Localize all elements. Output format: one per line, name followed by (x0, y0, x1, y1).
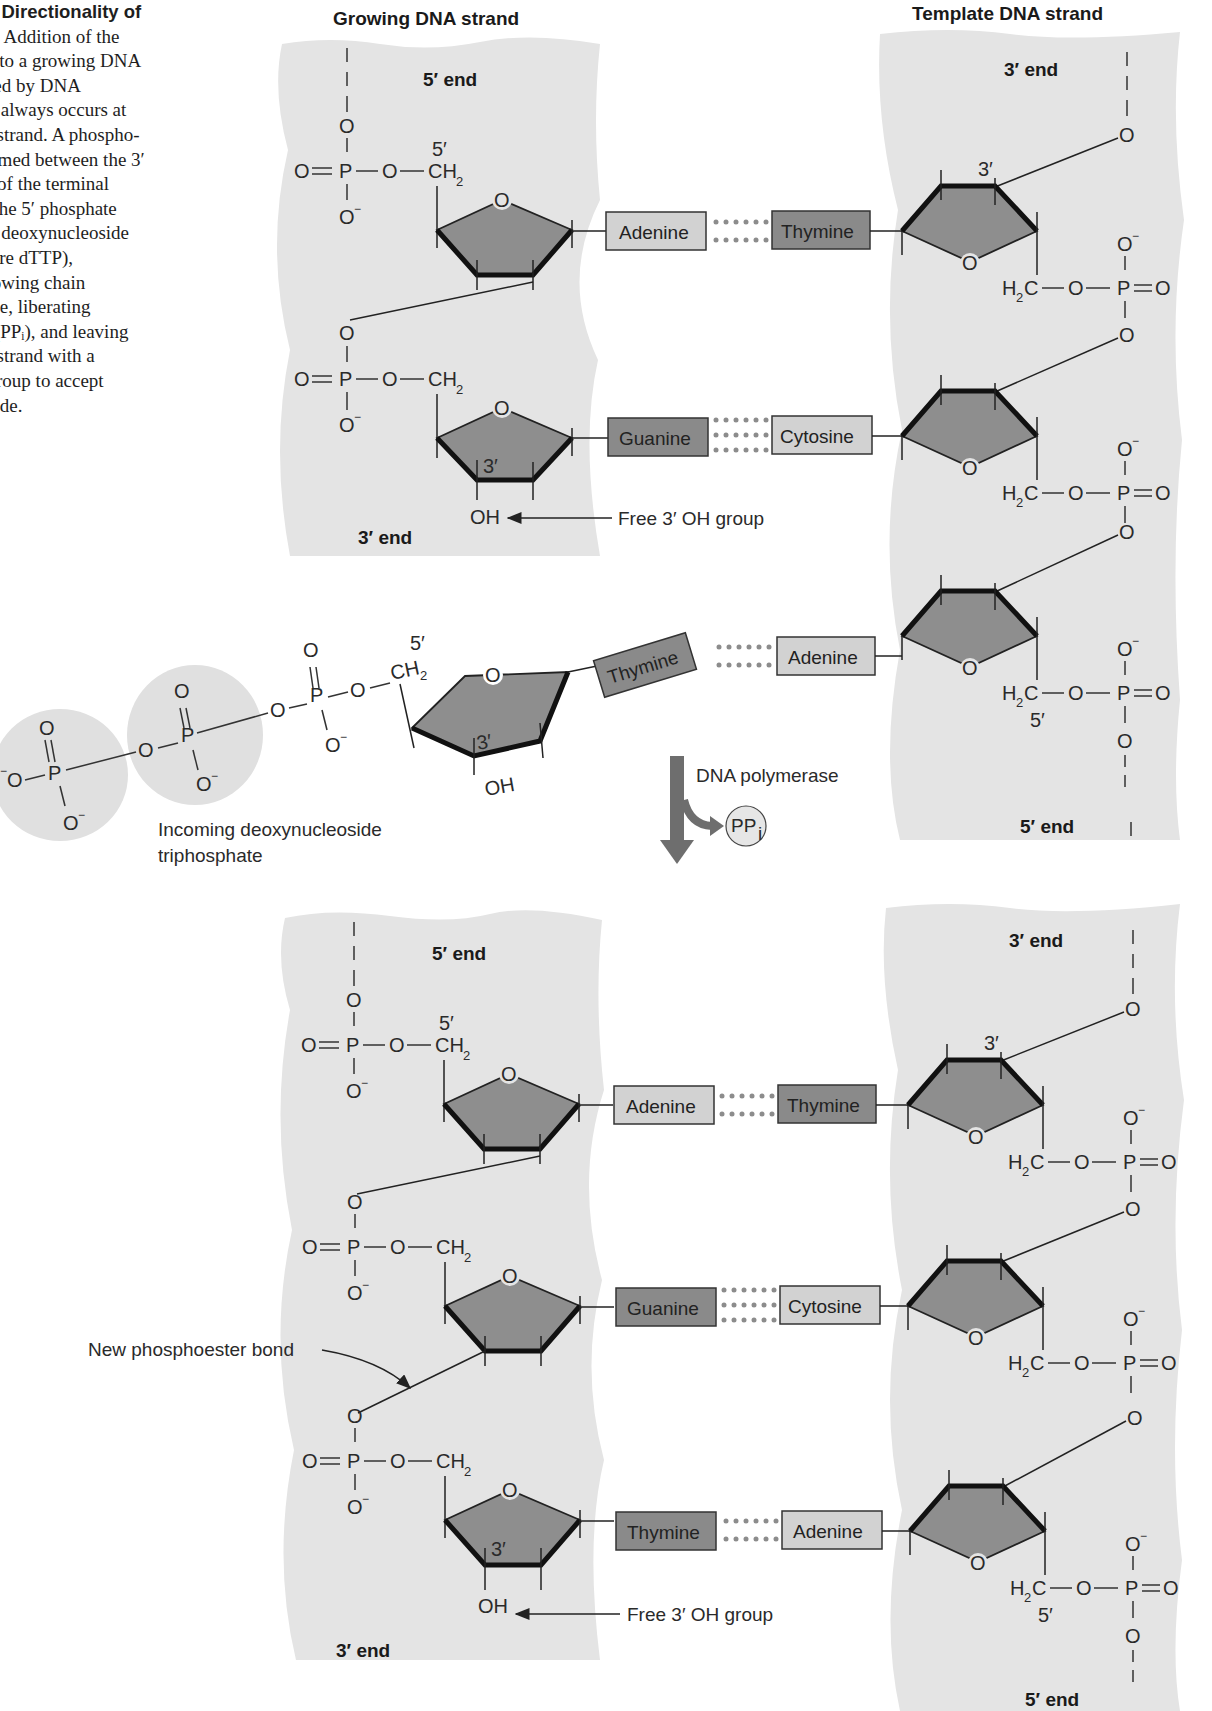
incoming-base-pair: Thymine Adenine (594, 633, 902, 697)
svg-text:O: O (382, 368, 398, 390)
svg-text:−: − (1132, 434, 1139, 448)
svg-text:O: O (494, 189, 510, 211)
svg-text:2: 2 (1022, 1365, 1029, 1380)
svg-text:−: − (1140, 1529, 1147, 1543)
svg-text:CH: CH (436, 1236, 465, 1258)
svg-text:CH: CH (388, 656, 421, 684)
svg-text:−: − (78, 808, 85, 822)
base-adenine: Adenine (793, 1521, 863, 1542)
svg-text:OH: OH (483, 773, 516, 800)
svg-text:O: O (1068, 682, 1084, 704)
svg-text:H: H (1008, 1352, 1022, 1374)
svg-text:−: − (362, 1278, 369, 1292)
base-guanine: Guanine (619, 428, 691, 449)
svg-text:O: O (301, 1034, 317, 1056)
bottom-five-prime-end: 5′ end (432, 943, 486, 964)
svg-text:O: O (1068, 482, 1084, 504)
free-oh-label: Free 3′ OH group (618, 508, 764, 529)
svg-text:−: − (1132, 229, 1139, 243)
svg-text:OH: OH (478, 1595, 508, 1617)
svg-text:O: O (350, 679, 366, 701)
svg-text:O: O (39, 717, 55, 739)
svg-text:P: P (1117, 482, 1130, 504)
svg-text:2: 2 (456, 174, 463, 189)
svg-text:2: 2 (1016, 495, 1023, 510)
svg-text:−: − (1138, 1304, 1145, 1318)
svg-text:O: O (1125, 1198, 1141, 1220)
svg-text:H: H (1002, 277, 1016, 299)
svg-text:O: O (1125, 1533, 1141, 1555)
incoming-label-2: triphosphate (158, 845, 263, 866)
svg-text:O: O (347, 1496, 363, 1518)
svg-text:−: − (354, 202, 361, 216)
beta-phosphate-circle (127, 665, 263, 805)
svg-text:O: O (968, 1126, 984, 1148)
base-pair: Guanine Cytosine (616, 1286, 908, 1326)
svg-text:P: P (1123, 1151, 1136, 1173)
svg-text:O: O (325, 734, 341, 756)
svg-text:2: 2 (464, 1464, 471, 1479)
svg-text:2: 2 (1022, 1164, 1029, 1179)
svg-text:O: O (339, 206, 355, 228)
svg-text:O: O (1117, 638, 1133, 660)
svg-text:O: O (303, 639, 319, 661)
svg-text:O: O (347, 1191, 363, 1213)
svg-text:P: P (1125, 1577, 1138, 1599)
svg-text:O: O (347, 1282, 363, 1304)
svg-text:C: C (1024, 682, 1038, 704)
template-three-prime-end: 3′ end (1004, 59, 1058, 80)
free-oh-label-bottom: Free 3′ OH group (627, 1604, 773, 1625)
svg-text:−: − (211, 769, 218, 783)
svg-text:PP: PP (731, 815, 756, 836)
svg-text:O: O (302, 1236, 318, 1258)
svg-text:O: O (382, 160, 398, 182)
svg-text:O: O (502, 1479, 518, 1501)
svg-text:2: 2 (464, 1250, 471, 1265)
svg-text:H: H (1008, 1151, 1022, 1173)
dna-synthesis-diagram: Growing DNA strand Template DNA strand 5… (0, 0, 1212, 1711)
svg-text:2: 2 (463, 1048, 470, 1063)
svg-text:−: − (361, 1076, 368, 1090)
svg-text:O: O (339, 414, 355, 436)
svg-text:O: O (1161, 1352, 1177, 1374)
svg-text:O: O (302, 1450, 318, 1472)
svg-text:3′: 3′ (491, 1538, 506, 1560)
incoming-label: Incoming deoxynucleoside (158, 819, 382, 840)
svg-text:P: P (347, 1450, 360, 1472)
svg-text:2: 2 (420, 668, 427, 683)
svg-text:O: O (1117, 730, 1133, 752)
svg-text:5′: 5′ (1038, 1604, 1053, 1626)
svg-text:O: O (1155, 482, 1171, 504)
svg-text:P: P (1117, 682, 1130, 704)
svg-text:P: P (339, 368, 352, 390)
svg-text:P: P (347, 1236, 360, 1258)
base-pair: Guanine Cytosine (608, 416, 902, 456)
svg-text:P: P (346, 1034, 359, 1056)
svg-text:CH: CH (428, 368, 457, 390)
growing-strand-header: Growing DNA strand (333, 8, 519, 29)
svg-text:−: − (340, 730, 347, 744)
svg-text:−: − (1132, 634, 1139, 648)
growing-strand-bg-top (277, 37, 600, 556)
five-prime-end-label: 5′ end (423, 69, 477, 90)
svg-text:O: O (1123, 1107, 1139, 1129)
svg-text:O: O (962, 657, 978, 679)
svg-text:O: O (339, 115, 355, 137)
svg-text:2: 2 (456, 382, 463, 397)
svg-text:5′: 5′ (439, 1012, 454, 1034)
svg-text:P: P (1117, 277, 1130, 299)
svg-text:5′: 5′ (1030, 709, 1045, 731)
svg-text:O: O (174, 680, 190, 702)
three-prime-end-label: 3′ end (358, 527, 412, 548)
svg-text:O: O (1125, 1625, 1141, 1647)
svg-text:P: P (48, 762, 61, 784)
svg-text:O: O (1127, 1407, 1143, 1429)
base-adenine: Adenine (619, 222, 689, 243)
svg-text:O: O (1161, 1151, 1177, 1173)
svg-text:−: − (0, 764, 7, 778)
svg-text:i: i (758, 823, 762, 844)
svg-text:O: O (1125, 998, 1141, 1020)
svg-text:O: O (7, 769, 23, 791)
base-thymine: Thymine (787, 1095, 860, 1116)
svg-text:O: O (294, 160, 310, 182)
